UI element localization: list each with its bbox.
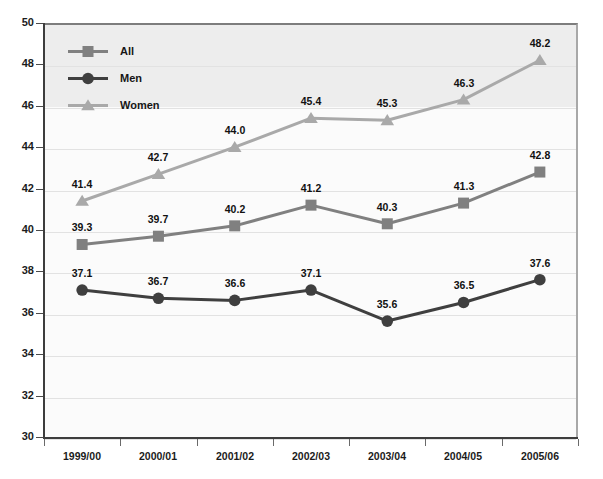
y-axis-tick (36, 230, 43, 231)
y-axis-tick (36, 23, 43, 24)
marker-men-1 (153, 293, 165, 305)
marker-men-3 (305, 284, 317, 296)
y-axis-tick-label: 38 (6, 265, 34, 276)
x-axis-tick-label: 2002/03 (273, 450, 349, 462)
data-label-women-1: 42.7 (143, 152, 173, 163)
x-axis-tick-label: 2001/02 (197, 450, 273, 462)
y-axis-tick-label: 42 (6, 183, 34, 194)
marker-all-2 (229, 220, 240, 231)
marker-all-5 (458, 198, 469, 209)
data-label-men-6: 37.6 (525, 258, 555, 269)
legend-marker (82, 73, 94, 85)
x-axis-tick (44, 439, 45, 446)
x-axis-tick-label: 2000/01 (120, 450, 196, 462)
y-axis-tick-label: 30 (6, 431, 34, 442)
x-axis-tick (502, 439, 503, 446)
y-axis-tick-label: 46 (6, 100, 34, 111)
data-label-men-0: 37.1 (67, 268, 97, 279)
y-axis-tick (36, 64, 43, 65)
legend-label: Women (120, 99, 160, 112)
line-chart: 5048464442403836343230 1999/002000/01200… (0, 0, 603, 479)
y-axis-tick-label: 48 (6, 58, 34, 69)
data-label-women-2: 44.0 (220, 125, 250, 136)
data-label-men-5: 36.5 (449, 280, 479, 291)
y-axis-tick-label: 50 (6, 17, 34, 28)
y-axis-tick (36, 354, 43, 355)
data-label-all-6: 42.8 (525, 150, 555, 161)
x-axis-tick (197, 439, 198, 446)
x-axis-tick (120, 439, 121, 446)
marker-women-6 (533, 54, 547, 65)
y-axis-tick (36, 313, 43, 314)
data-label-women-4: 45.3 (372, 98, 402, 109)
data-label-all-3: 41.2 (296, 183, 326, 194)
data-label-all-5: 41.3 (449, 181, 479, 192)
y-axis-tick-label: 36 (6, 307, 34, 318)
legend-item-women[interactable]: Women (66, 92, 196, 119)
data-label-all-0: 39.3 (67, 222, 97, 233)
data-label-all-4: 40.3 (372, 202, 402, 213)
marker-men-0 (76, 284, 88, 296)
y-axis-tick (36, 271, 43, 272)
data-label-all-2: 40.2 (220, 204, 250, 215)
chart-title (0, 0, 603, 3)
data-label-women-6: 48.2 (525, 38, 555, 49)
data-label-women-5: 46.3 (449, 78, 479, 89)
y-axis-tick (36, 147, 43, 148)
x-axis-tick (578, 439, 579, 446)
legend-item-all[interactable]: All (66, 38, 196, 65)
legend-marker (83, 46, 94, 57)
marker-men-6 (534, 274, 546, 286)
marker-all-1 (153, 231, 164, 242)
legend-label: All (120, 45, 134, 58)
x-axis-tick (349, 439, 350, 446)
data-label-men-2: 36.6 (220, 278, 250, 289)
marker-all-0 (77, 239, 88, 250)
triangle-marker-icon (66, 92, 110, 119)
legend-label: Men (120, 72, 142, 85)
x-axis-tick (425, 439, 426, 446)
marker-women-5 (457, 93, 471, 104)
data-label-all-1: 39.7 (143, 214, 173, 225)
x-axis-tick (273, 439, 274, 446)
marker-men-5 (458, 297, 470, 309)
x-axis-tick-label: 2004/05 (425, 450, 501, 462)
y-axis-tick (36, 189, 43, 190)
marker-all-3 (306, 200, 317, 211)
gridline (44, 439, 576, 440)
data-label-women-0: 41.4 (67, 179, 97, 190)
data-label-men-3: 37.1 (296, 268, 326, 279)
y-axis-tick-label: 34 (6, 348, 34, 359)
data-label-women-3: 45.4 (296, 96, 326, 107)
y-axis-tick-label: 40 (6, 224, 34, 235)
y-axis-tick-label: 44 (6, 141, 34, 152)
y-axis-tick (36, 437, 43, 438)
y-axis-tick (36, 396, 43, 397)
x-axis-tick-label: 2005/06 (502, 450, 578, 462)
x-axis-line (43, 437, 578, 439)
y-axis-tick-label: 32 (6, 390, 34, 401)
x-axis-tick-label: 1999/00 (44, 450, 120, 462)
x-axis-tick-label: 2003/04 (349, 450, 425, 462)
chart-legend: AllMenWomen (66, 38, 196, 119)
marker-men-2 (229, 295, 241, 307)
data-label-men-4: 35.6 (372, 299, 402, 310)
y-axis-tick (36, 106, 43, 107)
marker-all-4 (382, 218, 393, 229)
data-label-men-1: 36.7 (143, 276, 173, 287)
square-marker-icon (66, 38, 110, 65)
marker-men-4 (381, 315, 393, 327)
circle-marker-icon (66, 65, 110, 92)
marker-all-6 (534, 167, 545, 178)
legend-item-men[interactable]: Men (66, 65, 196, 92)
